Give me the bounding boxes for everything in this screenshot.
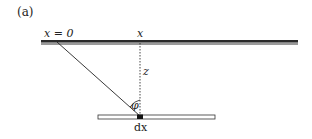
dx-label: dx (134, 121, 148, 134)
upper-surface (41, 40, 298, 42)
panel-label: (a) (17, 5, 34, 19)
dx-element (137, 115, 143, 120)
origin-label: x = 0 (44, 27, 73, 40)
upper-surface-shadow (41, 42, 298, 45)
lower-strip (98, 115, 215, 119)
diagram: (a) x = 0 x z φ dx (0, 0, 312, 139)
diagonal-ray (57, 42, 140, 116)
z-label: z (142, 65, 149, 78)
x-label: x (137, 27, 144, 40)
phi-label: φ (131, 99, 139, 112)
